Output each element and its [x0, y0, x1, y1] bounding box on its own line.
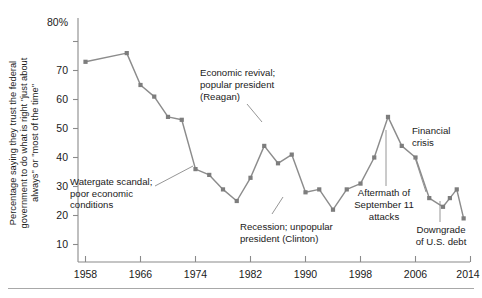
annotation-financial-crisis-line-1: Financial — [412, 125, 450, 136]
data-point-marker — [207, 173, 211, 177]
data-point-marker — [386, 115, 390, 119]
y-tick-label-10: 10 — [56, 238, 68, 250]
trust-in-government-line-chart: Percentage saying they trust the federal… — [0, 0, 482, 298]
data-point-marker — [462, 216, 466, 220]
data-point-marker — [358, 182, 362, 186]
data-point-marker — [235, 199, 239, 203]
chart-background — [0, 0, 482, 298]
x-tick-label-1966: 1966 — [129, 268, 153, 280]
y-tick-label-70: 70 — [56, 64, 68, 76]
x-tick-label-1998: 1998 — [349, 268, 373, 280]
y-tick-label-20: 20 — [56, 209, 68, 221]
data-point-marker — [455, 187, 459, 191]
annotation-clinton-line-2: president (Clinton) — [240, 233, 318, 244]
data-point-marker — [427, 196, 431, 200]
annotation-reagan-line-2: popular president — [200, 79, 274, 90]
annotation-watergate-line-2: poor economic — [70, 188, 133, 199]
y-tick-label-50: 50 — [56, 122, 68, 134]
annotation-september-11-line-3: attacks — [369, 211, 400, 222]
data-point-marker — [248, 176, 252, 180]
data-point-marker — [180, 118, 184, 122]
y-axis-title-line-2: government to do what is right "just abo… — [19, 57, 29, 228]
annotation-clinton-line-1: Recession; unpopular — [240, 221, 334, 232]
annotation-watergate-line-3: conditions — [70, 199, 113, 210]
data-point-marker — [317, 187, 321, 191]
x-tick-label-1990: 1990 — [294, 268, 318, 280]
chart-figure: Percentage saying they trust the federal… — [0, 0, 482, 298]
annotation-financial-crisis-line-2: crisis — [412, 137, 434, 148]
annotation-september-11-line-1: Aftermath of — [358, 187, 411, 198]
y-axis-title-line-1: Percentage saying they trust the federal — [8, 61, 18, 225]
y-tick-label-80: 80% — [47, 16, 68, 28]
data-point-marker — [290, 153, 294, 157]
data-point-marker — [138, 83, 142, 87]
data-point-marker — [262, 144, 266, 148]
annotation-downgrade: Downgrade of U.S. debt — [416, 224, 467, 247]
x-tick-label-2006: 2006 — [404, 268, 428, 280]
annotation-downgrade-line-2: of U.S. debt — [416, 236, 467, 247]
data-point-marker — [166, 115, 170, 119]
annotation-reagan-line-3: (Reagan) — [200, 91, 240, 102]
data-point-marker — [83, 60, 87, 64]
annotation-downgrade-line-1: Downgrade — [416, 224, 465, 235]
data-point-marker — [193, 167, 197, 171]
data-point-marker — [441, 205, 445, 209]
data-point-marker — [152, 95, 156, 99]
annotation-watergate-line-1: Watergate scandal; — [70, 176, 152, 187]
x-tick-label-2014: 2014 — [456, 268, 480, 280]
data-point-marker — [276, 161, 280, 165]
data-point-marker — [345, 187, 349, 191]
y-axis-title-line-3: always" or "most of the time" — [30, 84, 40, 202]
x-tick-label-1958: 1958 — [74, 268, 98, 280]
data-point-marker — [400, 144, 404, 148]
y-tick-label-60: 60 — [56, 93, 68, 105]
annotation-reagan-line-1: Economic revival; — [200, 67, 275, 78]
data-point-marker — [331, 208, 335, 212]
y-tick-label-40: 40 — [56, 151, 68, 163]
x-tick-label-1974: 1974 — [184, 268, 208, 280]
y-tick-label-30: 30 — [56, 180, 68, 192]
data-point-marker — [372, 155, 376, 159]
annotation-september-11-line-2: September 11 — [354, 199, 414, 210]
data-point-marker — [221, 187, 225, 191]
data-point-marker — [125, 51, 129, 55]
data-point-marker — [448, 196, 452, 200]
data-point-marker — [303, 190, 307, 194]
x-tick-label-1982: 1982 — [239, 268, 263, 280]
